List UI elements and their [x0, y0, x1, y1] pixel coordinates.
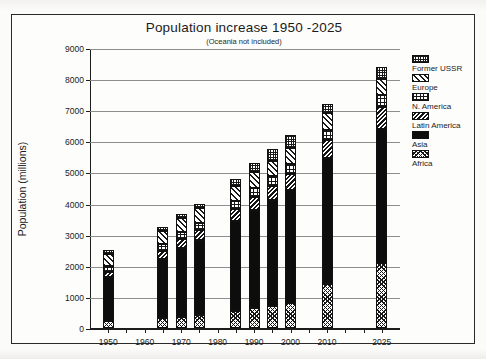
legend-label: Former USSR [412, 64, 462, 73]
gridline-y-6000 [90, 142, 400, 143]
x-tick-mark-minor [345, 330, 346, 333]
y-tick-mark [86, 205, 90, 206]
gridline-y-0 [90, 329, 400, 330]
bar-segment-latin-america [194, 230, 205, 240]
scanned-page: Population increase 1950 -2025 (Oceania … [0, 0, 486, 359]
bar-segment-former-ussr [376, 67, 387, 79]
bar-segment-asia [267, 200, 278, 305]
gridline-y-5000 [90, 173, 400, 174]
legend-swatch-n-america [412, 93, 429, 101]
bar-segment-asia [322, 158, 333, 284]
bar-segment-n-america [376, 95, 387, 107]
legend-row: Europe [410, 74, 482, 93]
bar-segment-asia [103, 277, 114, 321]
bar-segment-latin-america [285, 174, 296, 190]
bar-2010 [322, 104, 333, 328]
bar-segment-n-america [194, 223, 205, 230]
y-tick-mark [86, 298, 90, 299]
legend-swatch-africa [412, 150, 429, 158]
bar-segment-africa [267, 306, 278, 328]
bar-2000 [285, 135, 296, 328]
bar-segment-europe [230, 186, 241, 201]
bar-segment-asia [176, 248, 187, 316]
x-tick-mark [145, 329, 146, 333]
gridline-y-4000 [90, 205, 400, 206]
x-tick-label: 1990 [234, 337, 274, 347]
legend-row: Asia [410, 131, 482, 150]
legend-label: Asia [412, 140, 428, 149]
bar-segment-africa [176, 317, 187, 329]
x-tick-label: 1980 [198, 337, 238, 347]
legend-row: Former USSR [410, 55, 482, 74]
bar-segment-europe [249, 172, 260, 188]
x-tick-mark-minor [163, 330, 164, 333]
y-tick-mark [86, 173, 90, 174]
legend-label: N. America [412, 102, 451, 111]
gridline-y-3000 [90, 236, 400, 237]
x-tick-mark [181, 329, 182, 333]
y-tick-label: 5000 [38, 168, 84, 178]
y-tick-label: 7000 [38, 106, 84, 116]
bar-segment-asia [157, 259, 168, 318]
legend-label: Europe [412, 83, 438, 92]
y-tick-label: 3000 [38, 231, 84, 241]
y-tick-label: 9000 [38, 44, 84, 54]
bar-segment-latin-america [176, 239, 187, 248]
bar-1950 [103, 250, 114, 328]
bar-segment-asia [285, 190, 296, 303]
x-tick-mark-minor [364, 330, 365, 333]
bar-segment-africa [285, 303, 296, 328]
x-tick-mark [327, 329, 328, 333]
bar-segment-asia [230, 221, 241, 310]
x-tick-mark-minor [236, 330, 237, 333]
legend-row: Africa [410, 150, 482, 169]
bar-segment-europe [376, 79, 387, 95]
legend-swatch-europe [412, 74, 429, 82]
bar-segment-europe [176, 218, 187, 232]
bar-segment-former-ussr [285, 135, 296, 148]
y-tick-mark [86, 329, 90, 330]
y-tick-mark [86, 236, 90, 237]
x-tick-mark [108, 329, 109, 333]
y-tick-mark [86, 80, 90, 81]
bar-2025 [376, 67, 387, 328]
gridline-y-9000 [90, 49, 400, 50]
bar-segment-asia [376, 129, 387, 263]
plot-inner [90, 49, 400, 329]
y-axis-title: Population (millions) [16, 104, 28, 274]
x-tick-mark-minor [309, 330, 310, 333]
legend-row: N. America [410, 93, 482, 112]
bar-1995 [267, 149, 278, 328]
y-tick-mark [86, 49, 90, 50]
y-tick-label: 4000 [38, 200, 84, 210]
figure-frame: Population increase 1950 -2025 (Oceania … [11, 14, 475, 344]
bar-segment-latin-america [267, 186, 278, 201]
bar-segment-africa [157, 318, 168, 328]
legend-label: Latin America [412, 121, 460, 130]
legend-swatch-latin-america [412, 112, 429, 120]
bar-segment-n-america [249, 188, 260, 197]
gridline-y-2000 [90, 267, 400, 268]
bar-segment-latin-america [322, 140, 333, 158]
gridline-y-7000 [90, 111, 400, 112]
chart-legend: Former USSREuropeN. AmericaLatin America… [410, 55, 482, 169]
bar-segment-former-ussr [249, 163, 260, 172]
legend-swatch-asia [412, 131, 429, 139]
bar-segment-former-ussr [103, 250, 114, 255]
bar-segment-n-america [176, 232, 187, 239]
bar-segment-africa [103, 321, 114, 328]
x-tick-mark-minor [199, 330, 200, 333]
bar-segment-asia [249, 210, 260, 308]
bar-segment-europe [322, 113, 333, 129]
legend-row: Latin America [410, 112, 482, 131]
scan-artifact-bottom [0, 347, 486, 359]
x-tick-mark-minor [382, 330, 383, 333]
y-tick-label: 6000 [38, 137, 84, 147]
x-tick-label: 2010 [307, 337, 347, 347]
bar-segment-africa [249, 308, 260, 328]
y-tick-label: 8000 [38, 75, 84, 85]
bar-segment-n-america [267, 176, 278, 185]
bar-1990 [249, 163, 260, 328]
x-tick-label: 1950 [88, 337, 128, 347]
bar-segment-europe [157, 231, 168, 245]
